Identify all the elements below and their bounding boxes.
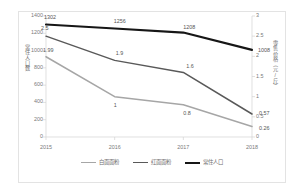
right-axis-tick: 2.5 [256,33,278,38]
x-axis-tick: 2017 [168,145,198,150]
legend-item-红面面粉[interactable]: 红面面粉 [133,160,171,165]
series-line-常住人口 [46,24,252,49]
series-line-白面面粉 [46,57,252,127]
legend-swatch [185,162,200,164]
chart-svg [46,16,252,137]
chart-legend: 白面面粉红面面粉常住人口 [18,160,286,165]
right-axis-tick: 1 [256,94,278,99]
chart-plot-area: 1.9910.80.262.51.91.60.57130212561208100… [46,16,252,137]
left-axis-tick: 200 [19,117,43,122]
data-label: 2.5 [41,26,49,31]
data-label: 1.9 [116,51,124,56]
x-axis-tick: 2018 [237,145,267,150]
data-label: 1302 [44,15,56,20]
legend-swatch [81,162,96,164]
legend-swatch [133,162,148,164]
right-axis-tick: 1.5 [256,74,278,79]
legend-item-常住人口[interactable]: 常住人口 [185,160,223,165]
legend-label: 红面面粉 [151,160,171,165]
data-label: 1208 [183,25,195,30]
chart-container: 常住人口数 零售价格（元/斤） 140012001000800600400200… [0,0,300,193]
left-axis-tick: 400 [19,99,43,104]
right-axis-title: 零售价格（元/斤） [272,40,277,89]
data-label: 0.8 [183,111,191,116]
legend-label: 白面面粉 [99,160,119,165]
x-axis-tick: 2016 [100,145,130,150]
right-axis-tick: 2 [256,53,278,58]
left-axis-tick: 600 [19,82,43,87]
data-label: 1256 [114,19,126,24]
data-label: 0.57 [259,111,270,116]
data-label: 1008 [258,48,270,53]
data-label: 1 [114,103,117,108]
left-axis-tick: 1200 [19,30,43,35]
left-axis-tick: 0 [19,134,43,139]
left-axis-tick: 1000 [19,48,43,53]
data-label: 1.99 [43,48,54,53]
left-axis-tick: 1400 [19,13,43,18]
data-label: 1.6 [186,64,194,69]
x-axis-tick: 2015 [31,145,61,150]
legend-item-白面面粉[interactable]: 白面面粉 [81,160,119,165]
right-axis-tick: 3 [256,13,278,18]
data-label: 0.26 [259,126,270,131]
legend-label: 常住人口 [203,160,223,165]
left-axis-tick: 800 [19,65,43,70]
right-axis-tick: 0 [256,134,278,139]
